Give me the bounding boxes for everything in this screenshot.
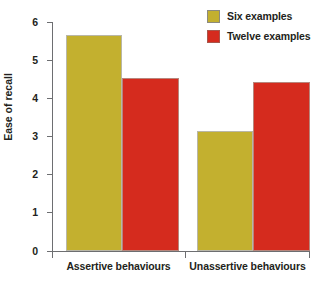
y-tick-3: 3 <box>47 136 52 137</box>
y-tick-label-1: 1 <box>32 205 38 219</box>
x-axis-label-unassertive-behaviours: Unassertive behaviours <box>185 260 310 272</box>
y-tick-label-6: 6 <box>32 15 38 29</box>
legend-swatch-six-examples <box>207 10 220 23</box>
x-axis-line <box>52 251 310 253</box>
bar-group-assertive-behaviours <box>66 23 179 251</box>
y-tick-label-2: 2 <box>32 167 38 181</box>
x-axis-label-assertive-behaviours: Assertive behaviours <box>52 260 185 272</box>
y-tick-label-3: 3 <box>32 129 38 143</box>
plot-area: 6 5 4 3 2 1 0 <box>52 22 310 252</box>
y-tick-2: 2 <box>47 174 52 175</box>
x-axis-tick-start <box>52 252 53 258</box>
legend-label-six-examples: Six examples <box>227 10 292 23</box>
y-tick-label-4: 4 <box>32 91 38 105</box>
y-axis-title: Ease of recall <box>2 73 14 141</box>
y-tick-label-0: 0 <box>32 244 38 258</box>
x-axis-tick-middle <box>185 252 186 258</box>
bar-chart: Six examples Twelve examples Ease of rec… <box>0 0 322 284</box>
bar-assertive-twelve-examples <box>122 78 179 250</box>
y-tick-5: 5 <box>47 60 52 61</box>
legend-item-six-examples: Six examples <box>207 9 311 23</box>
bar-group-unassertive-behaviours <box>197 23 310 251</box>
y-tick-1: 1 <box>47 212 52 213</box>
bar-unassertive-six-examples <box>197 131 253 250</box>
x-axis-tick-end <box>309 252 310 258</box>
y-tick-label-5: 5 <box>32 53 38 67</box>
y-tick-6: 6 <box>47 22 52 23</box>
y-axis-line <box>52 22 53 252</box>
bar-assertive-six-examples <box>66 35 122 250</box>
bar-unassertive-twelve-examples <box>253 82 310 250</box>
y-tick-4: 4 <box>47 98 52 99</box>
